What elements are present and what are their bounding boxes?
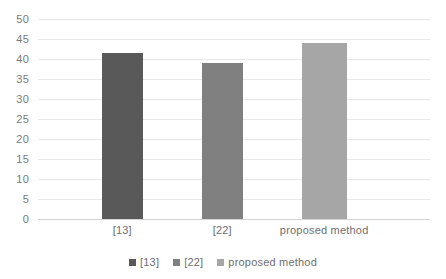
y-axis-tick-label: 15 [16,154,29,165]
legend-swatch-icon [129,259,136,266]
y-axis-tick-label: 30 [16,94,29,105]
y-axis: 50454035302520151050 [0,19,33,219]
legend-label: [22] [184,256,203,268]
y-axis-tick-label: 50 [16,14,29,25]
bar-chart: 50454035302520151050 [13][22]proposed me… [0,0,446,279]
x-axis-tick-label: [22] [213,224,232,237]
gridline [38,219,430,220]
y-axis-tick-label: 25 [16,114,29,125]
legend-item[interactable]: proposed method [217,256,317,268]
y-axis-tick-label: 45 [16,34,29,45]
chart-legend: [13][22]proposed method [0,256,446,268]
y-axis-tick-label: 5 [23,194,29,205]
x-axis: [13][22]proposed method [38,224,430,242]
x-axis-tick-label: [13] [113,224,132,237]
legend-label: [13] [140,256,159,268]
y-axis-tick-label: 40 [16,54,29,65]
gridline [38,39,430,40]
legend-swatch-icon [173,259,180,266]
legend-label: proposed method [228,256,317,268]
legend-item[interactable]: [22] [173,256,203,268]
plot-area [38,19,430,219]
gridline [38,59,430,60]
gridline [38,19,430,20]
y-axis-tick-label: 0 [23,214,29,225]
bar-1 [102,53,143,219]
y-axis-tick-label: 20 [16,134,29,145]
bar-3 [302,43,347,219]
legend-item[interactable]: [13] [129,256,159,268]
y-axis-tick-label: 35 [16,74,29,85]
legend-swatch-icon [217,259,224,266]
bar-2 [202,63,243,219]
y-axis-tick-label: 10 [16,174,29,185]
x-axis-tick-label: proposed method [280,224,369,237]
